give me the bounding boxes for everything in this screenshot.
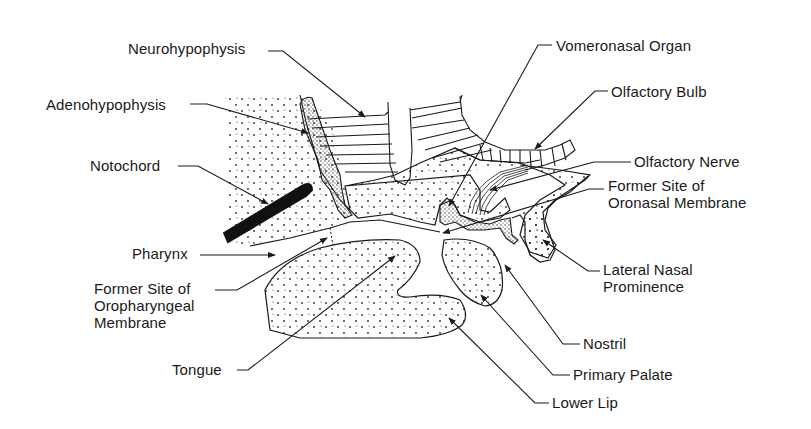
tongue-shape <box>265 240 466 338</box>
label-adenohypophysis: Adenohypophysis <box>46 96 166 113</box>
lateral-nasal-prominence <box>512 176 588 262</box>
label-pharynx: Pharynx <box>132 245 188 262</box>
leader-lower-lip <box>449 318 549 403</box>
label-lower-lip: Lower Lip <box>552 394 618 411</box>
leader-nostril <box>505 265 580 344</box>
oropharyngeal-dashed <box>330 228 333 245</box>
primary-palate-shape <box>442 239 503 306</box>
label-vomeronasal-organ: Vomeronasal Organ <box>556 37 691 54</box>
label-oropharyngeal-membrane: Former Site of Oropharyngeal Membrane <box>94 280 195 331</box>
label-notochord: Notochord <box>90 157 160 174</box>
label-olfactory-bulb: Olfactory Bulb <box>611 83 707 100</box>
label-nostril: Nostril <box>583 335 626 352</box>
label-neurohypophysis: Neurohypophysis <box>128 40 245 57</box>
leader-olfactory-bulb <box>535 91 608 149</box>
label-oronasal-membrane: Former Site of Oronasal Membrane <box>608 177 746 211</box>
diagram-canvas: Neurohypophysis Adenohypophysis Notochor… <box>0 0 811 429</box>
label-olfactory-nerve: Olfactory Nerve <box>634 153 740 170</box>
label-primary-palate: Primary Palate <box>573 366 673 383</box>
embryo-head-section-drawing <box>0 0 811 429</box>
label-lateral-nasal-prominence: Lateral Nasal Prominence <box>603 261 693 295</box>
label-tongue: Tongue <box>172 361 222 378</box>
